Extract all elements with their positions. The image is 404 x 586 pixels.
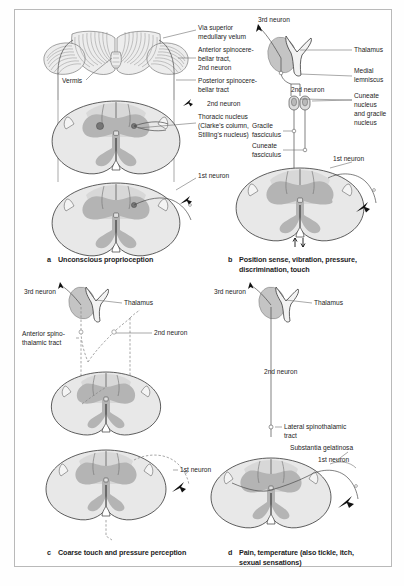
- label-c-ast-1: Anterior spino-: [22, 330, 65, 338]
- thoracic-nucleus-dot: [96, 122, 103, 129]
- thalamus-b: [265, 34, 312, 76]
- label-a-first-neuron: 1st neuron: [198, 172, 229, 179]
- gracile-cuneate-nuclei: [289, 96, 310, 110]
- label-b-medial-1: Medial: [354, 67, 374, 74]
- cerebellum: [44, 31, 188, 74]
- receptor-arrow-a-lower: [180, 196, 192, 205]
- caption-a: Unconscious proprioception: [58, 255, 153, 264]
- panel-d: 3rd neuron Thalamus 2nd neuron Lateral s…: [211, 282, 358, 567]
- label-b-medial-2: lemniscus: [354, 76, 384, 83]
- receptor-arrow-a-upper: [183, 99, 193, 107]
- label-d-first-neuron: 1st neuron: [318, 456, 349, 463]
- figure-page: Via superior medullary velum Anterior sp…: [0, 0, 404, 586]
- label-b-cuneate-1: Cuneate: [354, 92, 379, 99]
- receptor-arrow-c: [172, 482, 186, 493]
- label-b-gracile-2: fasciculus: [252, 131, 282, 138]
- label-post-sct-2: bellar tract: [198, 86, 229, 93]
- label-thoracic-2: (Clarke's column,: [198, 122, 249, 130]
- caption-c: Coarse touch and pressure perception: [58, 548, 186, 557]
- label-b-third-neuron: 3rd neuron: [258, 16, 290, 23]
- caption-letter-b: b: [228, 255, 233, 264]
- thalamus-c: [66, 285, 109, 322]
- label-vermis: Vermis: [62, 77, 83, 84]
- label-b-thalamus: Thalamus: [354, 46, 384, 53]
- label-a-second-neuron: 2nd neuron: [207, 100, 241, 107]
- thalamus-d: [256, 285, 299, 322]
- label-ant-sct-2: bellar tract,: [198, 55, 231, 62]
- label-d-lst-2: tract: [284, 432, 297, 439]
- label-c-second-neuron: 2nd neuron: [154, 329, 188, 336]
- label-ant-sct-3: 2nd neuron: [198, 64, 232, 71]
- panel-a: Via superior medullary velum Anterior sp…: [44, 24, 257, 264]
- label-via-superior-2: medullary velum: [198, 33, 247, 41]
- spinal-cord-c-lower: [46, 450, 189, 520]
- label-b-second-neuron: 2nd neuron: [291, 86, 325, 93]
- label-post-sct-1: Posterior spinocere-: [198, 77, 257, 85]
- label-ant-sct-1: Anterior spinocere-: [198, 46, 254, 54]
- caption-b-line2: discrimination, touch: [239, 265, 310, 274]
- label-c-third-neuron: 3rd neuron: [24, 288, 56, 295]
- label-c-first-neuron: 1st neuron: [180, 466, 211, 473]
- label-via-superior-1: Via superior: [198, 24, 234, 32]
- direction-arrows-b: [293, 238, 305, 247]
- caption-letter-a: a: [47, 255, 52, 264]
- caption-b-line1: Position sense, vibration, pressure,: [239, 255, 357, 264]
- receptor-arrow-d: [338, 496, 354, 508]
- label-thoracic-1: Thoracic nucleus: [198, 113, 249, 120]
- caption-letter-d: d: [228, 548, 232, 557]
- label-b-first-neuron: 1st neuron: [333, 155, 364, 162]
- label-d-second-neuron: 2nd neuron: [264, 368, 298, 375]
- spinal-cord-b: [236, 168, 376, 241]
- spinal-cord-a-upper: [52, 101, 180, 174]
- label-b-cunfasc-1: Cuneate: [252, 142, 277, 149]
- anatomy-figure: Via superior medullary velum Anterior sp…: [0, 0, 404, 586]
- label-b-gracile-1: Gracile: [252, 122, 273, 129]
- label-b-cuneate-3: and gracile: [354, 110, 387, 118]
- label-d-thalamus: Thalamus: [314, 299, 344, 306]
- label-b-cuneate-4: nucleus: [354, 119, 377, 126]
- panel-b: 3rd neuron Thalamus Medial lemniscus 2nd…: [228, 16, 387, 274]
- label-thoracic-3: Stilling's nucleus): [198, 131, 249, 139]
- label-c-ast-2: thalamic tract: [22, 339, 61, 346]
- label-c-thalamus: Thalamus: [124, 299, 154, 306]
- spinal-cord-d: [211, 458, 358, 528]
- caption-d-line2: sexual sensations): [239, 558, 302, 567]
- panel-c: 3rd neuron Thalamus Anterior spino- thal…: [22, 282, 211, 557]
- label-b-cunfasc-2: fasciculus: [252, 151, 282, 158]
- spinal-cord-a-lower: [52, 183, 191, 256]
- label-d-third-neuron: 3rd neuron: [214, 288, 246, 295]
- caption-d-line1: Pain, temperature (also tickle, itch,: [239, 548, 354, 557]
- label-d-substantia: Substantia gelatinosa: [290, 444, 353, 452]
- label-d-lst-1: Lateral spinothalamic: [284, 423, 347, 431]
- spinal-cord-c-upper: [51, 372, 160, 435]
- caption-letter-c: c: [47, 548, 51, 557]
- label-b-cuneate-2: nucleus: [354, 101, 377, 108]
